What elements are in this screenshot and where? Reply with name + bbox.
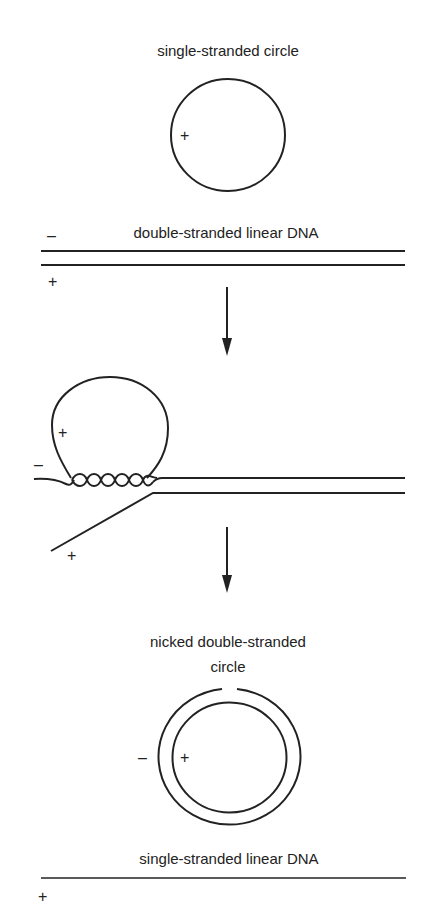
arrow-down-icon [222, 527, 232, 593]
plus-sign: + [58, 425, 67, 441]
plus-sign: + [48, 274, 57, 290]
label-single-stranded-linear-dna: single-stranded linear DNA [139, 850, 318, 867]
label-double-stranded-linear-dna: double-stranded linear DNA [133, 224, 318, 241]
plus-sign: + [180, 128, 189, 144]
minus-sign: – [47, 228, 56, 244]
minus-sign: – [138, 750, 147, 766]
plus-sign: + [38, 889, 47, 905]
invading-circle-loop [52, 377, 168, 478]
label-nicked-ds-circle-line2: circle [210, 658, 245, 675]
minus-strand-right [153, 478, 405, 482]
label-single-stranded-circle: single-stranded circle [157, 42, 299, 59]
strand-invasion-intermediate [34, 377, 405, 551]
plus-sign: + [67, 548, 76, 564]
minus-strand-left-tail [34, 479, 74, 485]
minus-sign: – [34, 457, 43, 473]
arrow-down-icon [222, 287, 232, 356]
plus-sign: + [180, 750, 189, 766]
nicked-inner-strand [173, 703, 287, 813]
label-nicked-ds-circle-line1: nicked double-stranded [150, 633, 306, 650]
diagram-canvas [0, 0, 423, 911]
